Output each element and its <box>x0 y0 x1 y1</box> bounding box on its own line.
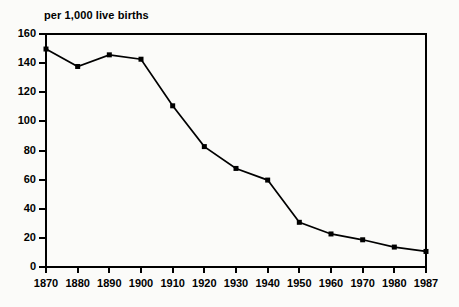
y-tick-label: 80 <box>24 144 36 155</box>
data-series-line <box>45 33 427 268</box>
data-point-1870 <box>44 47 49 52</box>
series-markers <box>44 47 429 254</box>
data-point-1920 <box>202 144 207 149</box>
y-tick-label: 0 <box>30 261 36 272</box>
y-tick-label: 60 <box>24 173 36 184</box>
x-tick-label-1940: 1940 <box>255 277 279 289</box>
series-polyline <box>46 49 426 251</box>
y-tick-label: 20 <box>24 231 36 242</box>
x-tick-label-1987: 1987 <box>414 277 438 289</box>
y-tick-label: 140 <box>18 57 36 68</box>
chart-title: per 1,000 live births <box>44 9 149 22</box>
x-tick-label-1910: 1910 <box>160 277 184 289</box>
x-tick-label-1870: 1870 <box>34 277 58 289</box>
y-tick-label: 160 <box>18 28 36 39</box>
y-tick-label: 100 <box>18 115 36 126</box>
x-tick-label-1950: 1950 <box>287 277 311 289</box>
line-chart: per 1,000 live births 020406080100120140… <box>0 0 459 307</box>
x-tick-label-1890: 1890 <box>97 277 121 289</box>
data-point-1940 <box>265 178 270 183</box>
y-tick-label: 120 <box>18 86 36 97</box>
data-point-1980 <box>392 245 397 250</box>
x-tick-label-1980: 1980 <box>382 277 406 289</box>
data-point-1960 <box>329 231 334 236</box>
x-tick-label-1960: 1960 <box>319 277 343 289</box>
x-tick-label-1880: 1880 <box>65 277 89 289</box>
data-point-1900 <box>139 57 144 62</box>
data-point-1970 <box>360 237 365 242</box>
data-point-1910 <box>170 103 175 108</box>
y-tick-label: 40 <box>24 202 36 213</box>
data-point-1880 <box>75 64 80 69</box>
data-point-1890 <box>107 52 112 57</box>
x-tick-label-1900: 1900 <box>129 277 153 289</box>
data-point-1930 <box>234 166 239 171</box>
plot-area: 020406080100120140160 187018801890190019… <box>45 33 427 268</box>
x-tick-label-1920: 1920 <box>192 277 216 289</box>
x-tick-label-1970: 1970 <box>350 277 374 289</box>
data-point-1987 <box>424 249 429 254</box>
x-tick-label-1930: 1930 <box>224 277 248 289</box>
data-point-1950 <box>297 220 302 225</box>
